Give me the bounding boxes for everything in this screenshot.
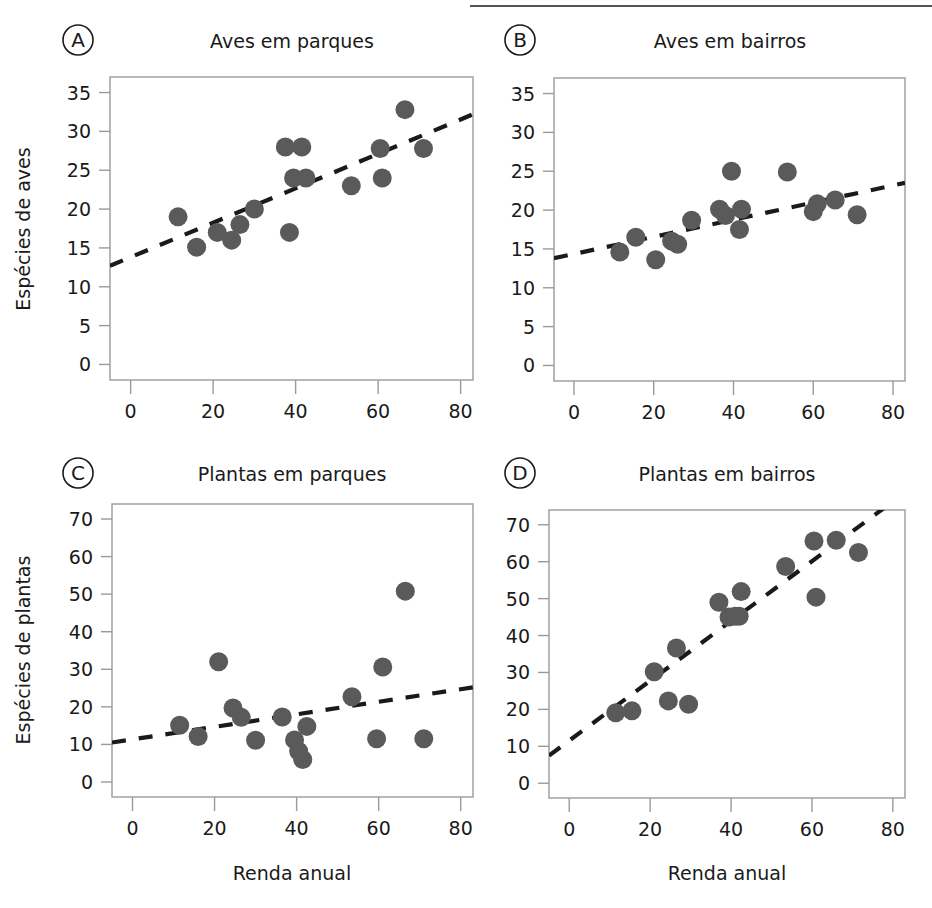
x-tick-label-c-0: 0	[126, 817, 138, 839]
data-point	[276, 137, 295, 156]
y-tick-label-c-5: 50	[69, 583, 93, 605]
data-points-c	[170, 582, 433, 769]
y-tick-label-a-6: 30	[67, 120, 91, 142]
data-point	[373, 169, 392, 188]
data-point	[722, 162, 741, 181]
y-tick-label-c-1: 10	[69, 733, 93, 755]
y-tick-label-d-2: 20	[506, 698, 530, 720]
y-tick-label-c-6: 60	[69, 546, 93, 568]
x-tick-label-a-4: 80	[449, 400, 473, 422]
y-tick-label-d-0: 0	[518, 772, 530, 794]
x-tick-label-b-2: 40	[721, 401, 745, 423]
data-point	[246, 731, 265, 750]
data-point	[682, 211, 701, 230]
data-point	[414, 139, 433, 158]
x-tick-label-d-4: 80	[881, 818, 905, 840]
x-tick-label-a-3: 60	[366, 400, 390, 422]
y-tick-label-b-5: 25	[511, 160, 535, 182]
panel-c: CPlantas em parques010203040506070020406…	[12, 458, 473, 884]
data-point	[778, 163, 797, 182]
y-tick-label-c-4: 40	[69, 621, 93, 643]
panel-label-letter-c: C	[71, 461, 85, 485]
data-point	[679, 695, 698, 714]
data-point	[668, 235, 687, 254]
y-tick-label-d-1: 10	[506, 735, 530, 757]
panel-title-d: Plantas em bairros	[638, 463, 815, 485]
plot-frame-b	[554, 78, 905, 381]
x-tick-label-b-0: 0	[568, 401, 580, 423]
data-point	[371, 139, 390, 158]
x-tick-label-b-4: 80	[881, 401, 905, 423]
data-point	[807, 588, 826, 607]
x-tick-label-a-2: 40	[284, 400, 308, 422]
y-tick-label-b-1: 5	[523, 316, 535, 338]
data-point	[280, 223, 299, 242]
data-point	[297, 717, 316, 736]
y-tick-label-b-7: 35	[511, 83, 535, 105]
y-tick-label-c-0: 0	[81, 771, 93, 793]
data-point	[645, 662, 664, 681]
y-tick-label-d-6: 60	[506, 551, 530, 573]
data-point	[827, 531, 846, 550]
data-point	[230, 215, 249, 234]
data-point	[232, 708, 251, 727]
x-tick-label-b-1: 20	[642, 401, 666, 423]
data-point	[296, 169, 315, 188]
data-point	[367, 729, 386, 748]
y-tick-label-a-1: 5	[79, 315, 91, 337]
data-point	[808, 194, 827, 213]
x-axis-label-c: Renda anual	[233, 862, 351, 884]
y-axis-label-c: Espécies de plantas	[12, 556, 34, 745]
y-tick-label-b-0: 0	[523, 354, 535, 376]
data-point	[776, 557, 795, 576]
x-tick-label-c-4: 80	[449, 817, 473, 839]
panel-a: AAves em parques05101520253035020406080E…	[12, 25, 473, 422]
panel-label-letter-a: A	[71, 28, 85, 52]
data-point	[209, 652, 228, 671]
x-tick-label-a-0: 0	[125, 400, 137, 422]
data-point	[189, 727, 208, 746]
y-axis-label-a: Espécies de aves	[12, 147, 34, 310]
data-points-b	[610, 162, 866, 270]
data-point	[848, 205, 867, 224]
data-point	[245, 200, 264, 219]
y-tick-label-a-5: 25	[67, 159, 91, 181]
x-tick-label-c-1: 20	[202, 817, 226, 839]
y-tick-label-a-4: 20	[67, 198, 91, 220]
trendline-a	[110, 114, 473, 266]
data-points-d	[606, 531, 868, 722]
y-tick-label-b-6: 30	[511, 121, 535, 143]
data-point	[646, 250, 665, 269]
panel-b: BAves em bairros05101520253035020406080	[505, 25, 905, 423]
y-tick-label-b-2: 10	[511, 277, 535, 299]
y-tick-label-a-7: 35	[67, 82, 91, 104]
data-point	[849, 543, 868, 562]
x-axis-label-d: Renda anual	[668, 862, 786, 884]
data-point	[373, 658, 392, 677]
data-point	[622, 701, 641, 720]
panel-title-a: Aves em parques	[210, 30, 374, 52]
x-tick-label-d-0: 0	[563, 818, 575, 840]
data-point	[187, 238, 206, 257]
x-tick-label-d-2: 40	[719, 818, 743, 840]
y-tick-label-c-2: 20	[69, 696, 93, 718]
data-point	[170, 716, 189, 735]
x-tick-label-c-2: 40	[285, 817, 309, 839]
data-points-a	[169, 100, 433, 257]
data-point	[342, 176, 361, 195]
y-tick-label-a-3: 15	[67, 237, 91, 259]
data-point	[292, 137, 311, 156]
panel-label-letter-b: B	[513, 28, 527, 52]
x-tick-label-b-3: 60	[801, 401, 825, 423]
panel-title-c: Plantas em parques	[198, 463, 387, 485]
data-point	[273, 707, 292, 726]
data-point	[293, 750, 312, 769]
data-point	[804, 532, 823, 551]
data-point	[667, 639, 686, 658]
y-tick-label-a-0: 0	[79, 353, 91, 375]
data-point	[732, 200, 751, 219]
y-tick-label-d-3: 30	[506, 661, 530, 683]
data-point	[826, 190, 845, 209]
data-point	[342, 687, 361, 706]
four-panel-scatter-figure: AAves em parques05101520253035020406080E…	[0, 0, 932, 908]
